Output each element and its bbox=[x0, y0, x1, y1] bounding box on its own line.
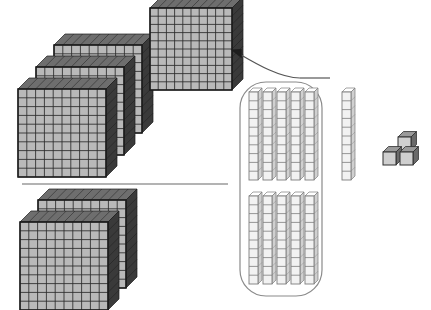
ten-rod bbox=[249, 192, 262, 284]
ten-rod bbox=[291, 88, 304, 180]
flat-top-face bbox=[150, 0, 243, 8]
ten-rod bbox=[277, 88, 290, 180]
base-ten-blocks-diagram bbox=[0, 0, 431, 310]
unit-cube bbox=[383, 147, 401, 165]
arrow-curve bbox=[236, 52, 300, 78]
ten-rod bbox=[342, 88, 355, 180]
unit-cubes bbox=[383, 132, 418, 165]
diagram-canvas bbox=[0, 0, 431, 310]
rods-row-top bbox=[249, 88, 318, 180]
subtrahend-flats bbox=[20, 189, 137, 310]
cube-front-face bbox=[383, 152, 396, 165]
regrouped-flat bbox=[150, 0, 243, 90]
regrouped-tens bbox=[240, 82, 322, 296]
ten-rod bbox=[263, 192, 276, 284]
minuend-flats bbox=[18, 34, 153, 177]
cube-front-face bbox=[400, 152, 413, 165]
regroup-arrow bbox=[232, 48, 330, 78]
ten-rod bbox=[305, 88, 318, 180]
hundred-flat bbox=[150, 0, 243, 90]
hundred-flat bbox=[18, 78, 117, 177]
unit-cube bbox=[400, 147, 418, 165]
ten-rod bbox=[249, 88, 262, 180]
ten-rod bbox=[263, 88, 276, 180]
rods-row-bottom bbox=[249, 192, 318, 284]
ten-rod bbox=[291, 192, 304, 284]
extra-ten-rod bbox=[342, 88, 355, 180]
hundred-flat bbox=[20, 211, 119, 310]
ten-rod bbox=[277, 192, 290, 284]
ten-rod bbox=[305, 192, 318, 284]
